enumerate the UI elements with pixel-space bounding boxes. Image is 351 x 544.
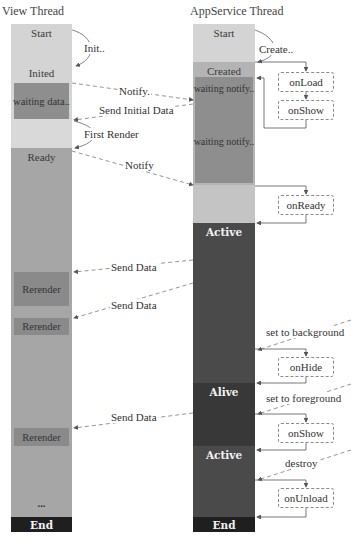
msg-create: Create.. xyxy=(258,43,294,55)
msg-send-data-1: Send Data xyxy=(110,261,158,273)
msg-notify-2: Notify xyxy=(124,159,155,171)
msg-destroy: destroy xyxy=(284,457,318,469)
msg-set-to-background: set to background xyxy=(265,326,345,338)
msg-send-data-3: Send Data xyxy=(110,411,158,423)
msg-notify-1: Notify. xyxy=(118,85,151,97)
msg-send-initial-data: Send Initial Data xyxy=(98,104,175,116)
msg-init: Init.. xyxy=(83,42,106,54)
msg-first-render: First Render xyxy=(83,128,140,140)
msg-set-to-foreground: set to foreground xyxy=(265,392,342,404)
msg-send-data-2: Send Data xyxy=(110,299,158,311)
